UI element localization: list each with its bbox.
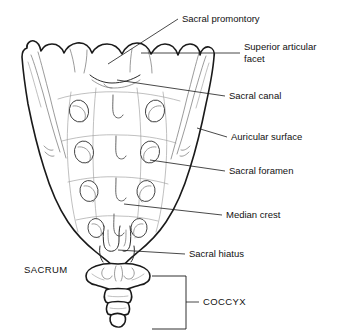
coccyx-bone-group bbox=[86, 264, 150, 327]
label-sacral-foramen: Sacral foramen bbox=[229, 165, 293, 176]
label-auricular-surface: Auricular surface bbox=[231, 131, 302, 142]
diagram-canvas: Sacral promontory Superior articular fac… bbox=[0, 0, 337, 333]
label-median-crest: Median crest bbox=[226, 209, 281, 220]
coccyx-bracket-group bbox=[152, 276, 199, 329]
label-sacral-hiatus: Sacral hiatus bbox=[189, 248, 244, 259]
label-sacral-canal: Sacral canal bbox=[229, 90, 281, 101]
label-superior-articular-facet-line2: facet bbox=[244, 53, 265, 64]
leader-auricular-surface bbox=[197, 128, 227, 137]
coccyx-bracket bbox=[152, 276, 186, 329]
sacrum-body-fill bbox=[22, 41, 214, 265]
label-sacrum: SACRUM bbox=[24, 264, 68, 275]
label-superior-articular-facet-line1: Superior articular bbox=[244, 41, 316, 52]
anatomical-figure-sacrum-coccyx: Sacral promontory Superior articular fac… bbox=[0, 0, 337, 333]
sacrum-bone-group bbox=[22, 41, 214, 265]
label-coccyx: COCCYX bbox=[203, 296, 246, 307]
label-sacral-promontory: Sacral promontory bbox=[182, 13, 260, 24]
